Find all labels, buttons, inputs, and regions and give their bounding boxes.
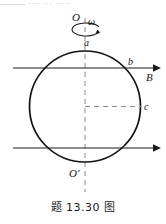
figure-caption: 题 13.30 图 xyxy=(0,198,166,214)
rotation-arrowhead-icon xyxy=(95,30,100,34)
figure-container: ——— ···· ··· ····· O ω a b B c O′ 题 13.3… xyxy=(0,0,166,224)
label-angular-velocity-omega: ω xyxy=(88,17,95,27)
label-point-c: c xyxy=(144,102,148,112)
label-axis-top-O: O xyxy=(72,12,80,23)
field-arrowhead-upper-icon xyxy=(153,64,161,72)
physics-diagram xyxy=(0,0,166,224)
label-point-b: b xyxy=(128,57,133,67)
label-point-a: a xyxy=(84,38,89,48)
field-arrowhead-lower-icon xyxy=(153,144,161,152)
label-axis-bottom-O-prime: O′ xyxy=(69,168,79,179)
label-magnetic-field-B: B xyxy=(146,72,153,83)
